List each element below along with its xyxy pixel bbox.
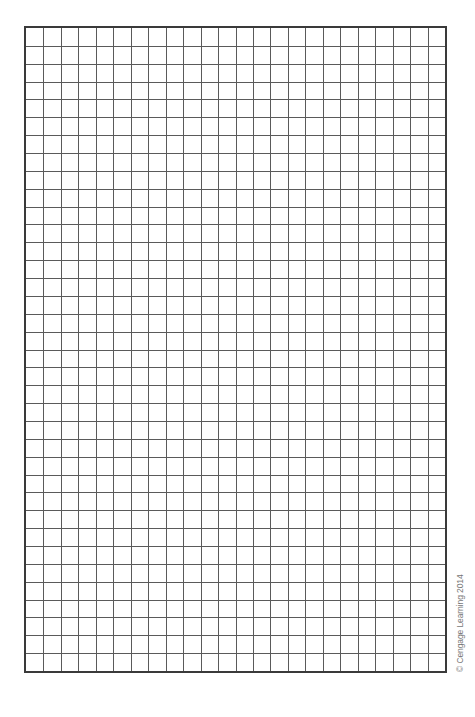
copyright-credit: © Cengage Learning 2014 <box>455 574 465 672</box>
graph-paper-grid <box>24 26 447 673</box>
grid-lines <box>26 28 445 671</box>
